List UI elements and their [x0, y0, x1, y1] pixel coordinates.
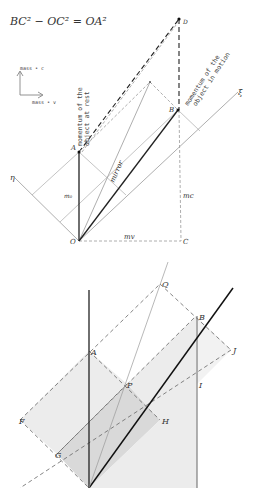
eta-axis	[15, 178, 79, 241]
point-Q: Q	[162, 280, 169, 289]
axis-legend-icon	[17, 71, 43, 98]
mirror-label: mirror	[109, 159, 126, 184]
point-H: H	[161, 417, 170, 426]
svg-text:object at rest: object at rest	[83, 91, 91, 146]
diagram-canvas: BC² − OC² = OA² mass • c mass • v η ξ	[0, 0, 254, 488]
xi-label: ξ	[238, 88, 243, 97]
label-mc: mc	[183, 192, 194, 200]
point-D: D	[182, 18, 188, 25]
point-A-lower: A	[90, 348, 97, 357]
point-B-lower: B	[198, 313, 205, 322]
motion-annotation: momentum of the object in motion	[183, 47, 232, 111]
label-m0: m₀	[64, 192, 73, 199]
label-mv: mv	[124, 233, 135, 241]
dashed-lines	[79, 19, 179, 152]
point-F: F	[18, 417, 25, 426]
point-B: B	[168, 106, 174, 114]
legend-right-label: mass • v	[32, 99, 56, 105]
bottom-diagram: A Q B J I P H G F	[18, 262, 237, 488]
xi-axis	[79, 92, 238, 241]
point-J: J	[231, 346, 237, 355]
eta-label: η	[10, 173, 15, 182]
point-G: G	[55, 451, 62, 460]
point-C: C	[183, 238, 189, 246]
legend-up-label: mass • c	[20, 65, 44, 71]
top-diagram: BC² − OC² = OA² mass • c mass • v η ξ	[9, 15, 243, 246]
point-I: I	[198, 381, 203, 390]
rest-annotation: momentum of the object at rest	[76, 87, 91, 146]
point-O: O	[70, 238, 76, 246]
equation: BC² − OC² = OA²	[9, 15, 107, 28]
point-P: P	[126, 381, 133, 390]
